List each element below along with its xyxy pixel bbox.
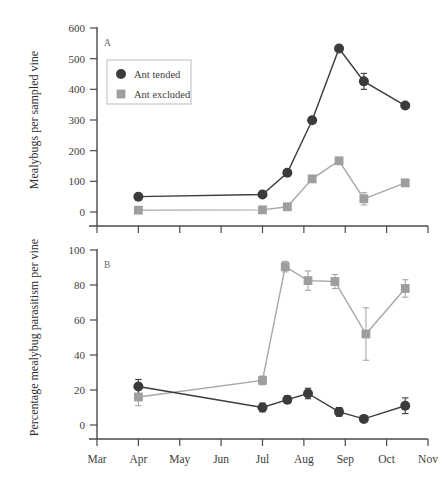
data-point-ant-excluded [362,330,371,339]
data-point-ant-tended [303,389,313,399]
panel-b: 020406080100MarAprMayJunJulAugSepOctNovP… [27,239,438,466]
data-point-ant-tended [334,44,344,54]
x-tick-label: Mar [87,453,106,465]
y-tick-label: 400 [69,83,86,95]
data-point-ant-excluded [304,276,313,285]
data-point-ant-excluded [308,174,317,183]
legend-marker-ant-tended [116,69,126,79]
x-tick-label: Jul [256,453,269,465]
data-point-ant-tended [282,168,292,178]
y-tick-label: 20 [74,384,86,396]
y-tick-label: 40 [74,349,86,361]
data-point-ant-tended [334,407,344,417]
y-tick-label: 60 [74,314,86,326]
y-tick-label: 0 [80,419,86,431]
data-point-ant-excluded [335,156,344,165]
y-tick-label: 600 [69,22,86,34]
data-point-ant-tended [400,101,410,111]
x-tick-label: Aug [294,453,314,466]
data-point-ant-excluded [281,262,290,271]
data-point-ant-excluded [331,277,340,286]
y-axis-title: Percentage mealybug parasitism per vine [27,239,41,436]
y-axis-title: Mealybugs per sampled vine [27,51,41,189]
panel-letter: B [104,260,110,270]
data-point-ant-tended [258,403,268,413]
data-point-ant-excluded [401,284,410,293]
y-tick-label: 200 [69,145,86,157]
data-point-ant-tended [307,115,317,125]
x-tick-label: Apr [129,453,147,466]
x-tick-label: Sep [337,453,355,466]
y-tick-label: 500 [69,53,86,65]
legend-marker-ant-excluded [117,90,126,99]
panel-a: 0100200300400500600Mealybugs per sampled… [27,22,428,233]
data-point-ant-tended [400,401,410,411]
data-point-ant-excluded [134,206,143,215]
data-point-ant-excluded [359,194,368,203]
y-tick-label: 0 [80,206,86,218]
chart-svg: 0100200300400500600Mealybugs per sampled… [0,0,446,496]
x-tick-label: Jun [213,453,229,465]
panel-letter: A [104,38,111,48]
y-tick-label: 300 [69,114,86,126]
data-point-ant-excluded [258,376,267,385]
legend-label-ant-excluded: Ant excluded [134,89,191,100]
figure-container: 0100200300400500600Mealybugs per sampled… [0,0,446,496]
data-point-ant-tended [282,395,292,405]
data-point-ant-tended [133,192,143,202]
x-tick-label: Nov [418,453,438,465]
y-tick-label: 100 [69,175,86,187]
data-point-ant-tended [359,76,369,86]
legend-label-ant-tended: Ant tended [134,69,181,80]
data-point-ant-tended [359,414,369,424]
data-point-ant-excluded [401,178,410,187]
data-point-ant-excluded [134,393,143,402]
y-tick-label: 100 [69,244,86,256]
data-point-ant-excluded [258,205,267,214]
data-point-ant-tended [258,190,268,200]
data-point-ant-excluded [283,202,292,211]
data-point-ant-tended [133,382,143,392]
y-tick-label: 80 [74,279,86,291]
x-tick-label: May [169,453,190,466]
x-tick-label: Oct [378,453,395,465]
